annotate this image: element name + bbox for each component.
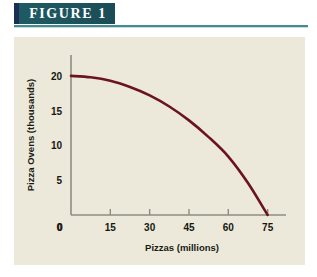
y-axis-title: Pizza Ovens (thousands) [25,79,36,191]
x-axis-ticks [110,209,267,215]
x-axis-tick-label: 45 [183,222,195,233]
chart-panel: 01530456075 05101520 Pizzas (millions) P… [14,37,305,265]
y-axis-tick-label: 5 [56,175,62,186]
x-axis-tick-label: 15 [105,222,117,233]
ppf-chart: 01530456075 05101520 Pizzas (millions) P… [14,37,305,265]
x-axis-title: Pizzas (millions) [145,242,219,253]
y-axis-tick-label: 15 [51,106,63,117]
figure-divider-shadow [14,27,308,28]
x-axis-tick-label: 60 [223,222,235,233]
ppf-curve-group [71,76,268,215]
figure-root: FIGURE 1 01530456075 05101520 Pizzas (mi… [0,0,317,277]
figure-header: FIGURE 1 [14,3,115,24]
x-axis-tick-labels: 01530456075 [57,222,273,233]
y-axis-tick-label: 0 [56,222,62,233]
ppf-curve [71,76,268,215]
x-axis-tick-label: 30 [144,222,156,233]
figure-badge-label: FIGURE 1 [27,7,107,21]
y-axis-tick-labels: 05101520 [51,71,63,233]
figure-badge: FIGURE 1 [19,3,115,24]
y-axis-tick-label: 10 [51,140,63,151]
x-axis-tick-label: 75 [262,222,274,233]
y-axis-tick-label: 20 [51,71,63,82]
